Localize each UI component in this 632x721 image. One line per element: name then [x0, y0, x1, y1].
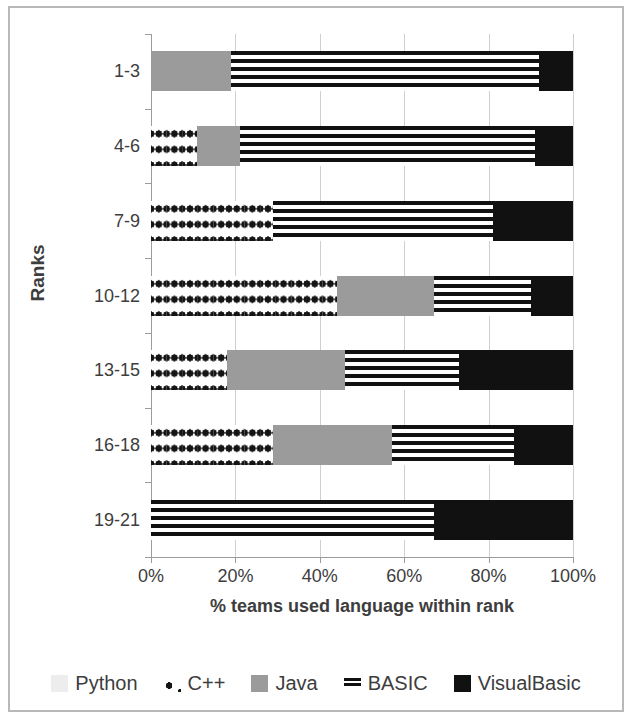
x-axis-tick-label: 20% [217, 566, 253, 587]
bar-segment-visualbasic[interactable] [459, 350, 573, 390]
y-axis-title: Ranks [27, 213, 49, 333]
legend-item[interactable]: BASIC [344, 672, 428, 695]
bar-segment-visualbasic[interactable] [434, 500, 573, 540]
bar-row [151, 425, 573, 465]
java-swatch-icon [251, 675, 268, 692]
legend-item[interactable]: C++ [164, 672, 226, 695]
legend-label: BASIC [368, 672, 428, 695]
x-axis-tick [320, 557, 321, 563]
legend-label: VisualBasic [478, 672, 581, 695]
bar-segment-visualbasic[interactable] [539, 51, 573, 91]
bar-segment-visualbasic[interactable] [493, 201, 573, 241]
bar-row [151, 500, 573, 540]
legend-item[interactable]: VisualBasic [454, 672, 581, 695]
bar-row [151, 276, 573, 316]
x-axis-tick [573, 557, 574, 563]
x-axis-tick-label: 100% [550, 566, 596, 587]
basic-swatch-icon [344, 675, 361, 692]
bar-segment-basic[interactable] [434, 276, 531, 316]
bar-segment-visualbasic[interactable] [514, 425, 573, 465]
x-axis-tick-label: 40% [302, 566, 338, 587]
y-axis-tick-label: 13-15 [60, 360, 140, 381]
x-axis-line [151, 557, 574, 558]
bar-segment-basic[interactable] [151, 500, 434, 540]
bar-segment-basic[interactable] [273, 201, 492, 241]
y-axis-tick-label: 4-6 [60, 136, 140, 157]
y-axis-tick-label: 19-21 [60, 509, 140, 530]
plot-area [151, 34, 573, 557]
bar-segment-cpp[interactable] [151, 350, 227, 390]
x-axis-tick-label: 0% [138, 566, 164, 587]
bar-row [151, 350, 573, 390]
bar-segment-basic[interactable] [240, 126, 535, 166]
y-axis-tick-label: 1-3 [60, 61, 140, 82]
bar-row [151, 51, 573, 91]
x-axis-title: % teams used language within rank [151, 596, 573, 617]
bar-segment-basic[interactable] [345, 350, 459, 390]
x-axis-tick [235, 557, 236, 563]
bar-row [151, 201, 573, 241]
bar-segment-visualbasic[interactable] [535, 126, 573, 166]
legend-label: Java [275, 672, 317, 695]
legend-item[interactable]: Python [51, 672, 137, 695]
chart-legend: PythonC++JavaBASICVisualBasic [8, 660, 624, 706]
x-axis-tick-label: 80% [471, 566, 507, 587]
chart-figure: Ranks % teams used language within rank … [0, 0, 632, 721]
x-axis-tick [151, 557, 152, 563]
visualbasic-swatch-icon [454, 675, 471, 692]
y-axis-tick-label: 16-18 [60, 434, 140, 455]
y-axis-tick [145, 557, 151, 558]
bar-segment-java[interactable] [273, 425, 391, 465]
bar-segment-cpp[interactable] [151, 425, 273, 465]
x-axis-tick [489, 557, 490, 563]
bar-segment-java[interactable] [197, 126, 239, 166]
y-axis-tick-label: 7-9 [60, 210, 140, 231]
y-axis-tick-label: 10-12 [60, 285, 140, 306]
legend-label: C++ [188, 672, 226, 695]
legend-label: Python [75, 672, 137, 695]
bar-segment-java[interactable] [227, 350, 345, 390]
python-swatch-icon [51, 675, 68, 692]
cpp-swatch-icon [164, 675, 181, 692]
bar-segment-cpp[interactable] [151, 201, 273, 241]
legend-item[interactable]: Java [251, 672, 317, 695]
bar-segment-basic[interactable] [392, 425, 514, 465]
bar-segment-cpp[interactable] [151, 126, 197, 166]
x-axis-tick [404, 557, 405, 563]
gridline [573, 34, 574, 557]
x-axis-tick-label: 60% [386, 566, 422, 587]
bar-segment-java[interactable] [337, 276, 434, 316]
bar-row [151, 126, 573, 166]
bar-segment-basic[interactable] [231, 51, 539, 91]
bar-segment-visualbasic[interactable] [531, 276, 573, 316]
bar-segment-java[interactable] [151, 51, 231, 91]
bar-segment-cpp[interactable] [151, 276, 337, 316]
plot-wrapper: Ranks % teams used language within rank … [0, 0, 632, 600]
